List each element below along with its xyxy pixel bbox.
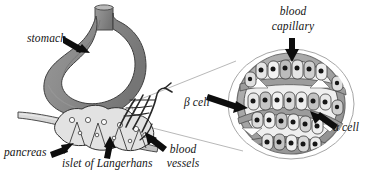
- label-islet-of-langerhans: islet of Langerhans: [62, 157, 153, 170]
- label-blood-vessels-line1: blood: [160, 143, 206, 156]
- stomach-organ: [44, 13, 146, 117]
- label-blood-capillary-line1: blood: [262, 5, 324, 18]
- label-alpha-cell: α cell: [333, 121, 359, 134]
- label-blood-capillary-line2: capillary: [258, 20, 328, 33]
- pancreas-arrow: [50, 143, 74, 158]
- label-stomach: stomach: [27, 32, 66, 45]
- label-blood-vessels-line2: vessels: [160, 157, 206, 170]
- diagram-canvas: stomach pancreas islet of Langerhans blo…: [0, 0, 370, 172]
- label-pancreas: pancreas: [4, 146, 47, 159]
- esophagus: [95, 5, 113, 30]
- label-beta-cell: β cell: [184, 96, 210, 109]
